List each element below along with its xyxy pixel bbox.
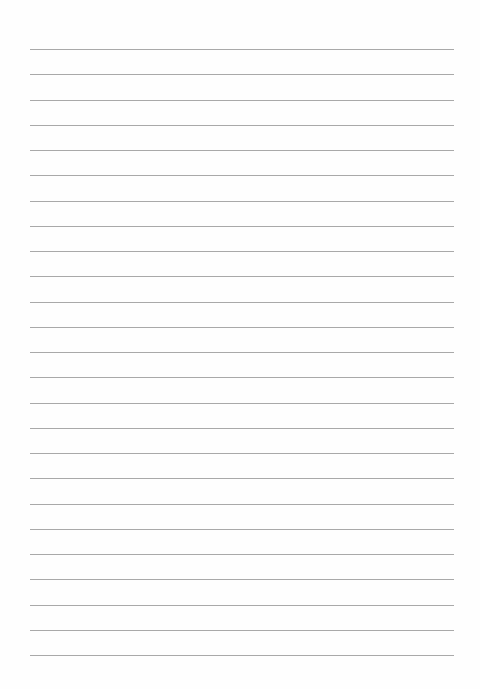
lined-paper-page <box>0 0 480 689</box>
ruled-line <box>30 428 454 429</box>
ruled-line <box>30 605 454 606</box>
ruled-line <box>30 302 454 303</box>
ruled-line <box>30 403 454 404</box>
ruled-line <box>30 478 454 479</box>
ruled-line <box>30 554 454 555</box>
ruled-line <box>30 352 454 353</box>
ruled-line <box>30 630 454 631</box>
ruled-line <box>30 125 454 126</box>
ruled-line <box>30 49 454 50</box>
ruled-line <box>30 150 454 151</box>
ruled-line <box>30 100 454 101</box>
ruled-line <box>30 74 454 75</box>
ruled-line <box>30 327 454 328</box>
ruled-line <box>30 251 454 252</box>
ruled-line <box>30 276 454 277</box>
ruled-line <box>30 655 454 656</box>
ruled-line <box>30 579 454 580</box>
ruled-line <box>30 201 454 202</box>
ruled-line <box>30 504 454 505</box>
ruled-line <box>30 529 454 530</box>
ruled-line <box>30 175 454 176</box>
ruled-line <box>30 226 454 227</box>
ruled-line <box>30 453 454 454</box>
ruled-line <box>30 377 454 378</box>
